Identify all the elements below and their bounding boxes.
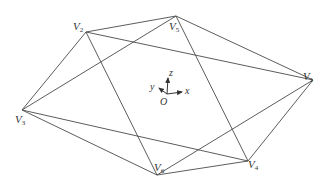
y-axis-label: y <box>149 81 155 92</box>
z-axis <box>167 78 168 94</box>
edge-v2-v3 <box>22 32 86 110</box>
edge-v1-v6 <box>157 80 313 175</box>
edges <box>22 16 313 175</box>
z-axis-label: z <box>168 67 173 78</box>
coordinate-axes: z x y O <box>149 67 190 107</box>
x-axis-label: x <box>184 85 190 96</box>
edge-v2-v1 <box>86 32 313 80</box>
origin-label: O <box>160 96 167 107</box>
y-axis <box>159 88 167 94</box>
octahedron-diagram: z x y O V1 V2 V3 V4 V5 V6 <box>0 0 326 185</box>
vertex-label-v1: V1 <box>303 70 314 84</box>
edge-v5-v1 <box>176 16 313 80</box>
vertex-label-v2: V2 <box>73 20 84 34</box>
edge-v3-v4 <box>22 110 248 161</box>
vertex-label-v6: V6 <box>154 161 165 175</box>
edge-v1-v4 <box>248 80 313 161</box>
vertex-label-v4: V4 <box>248 158 259 172</box>
edge-v2-v6 <box>86 32 157 175</box>
edge-v6-v4 <box>157 161 248 175</box>
edge-v3-v6 <box>22 110 157 175</box>
vertex-label-v5: V5 <box>169 20 180 34</box>
x-axis <box>167 92 182 94</box>
vertex-label-v3: V3 <box>15 113 26 127</box>
